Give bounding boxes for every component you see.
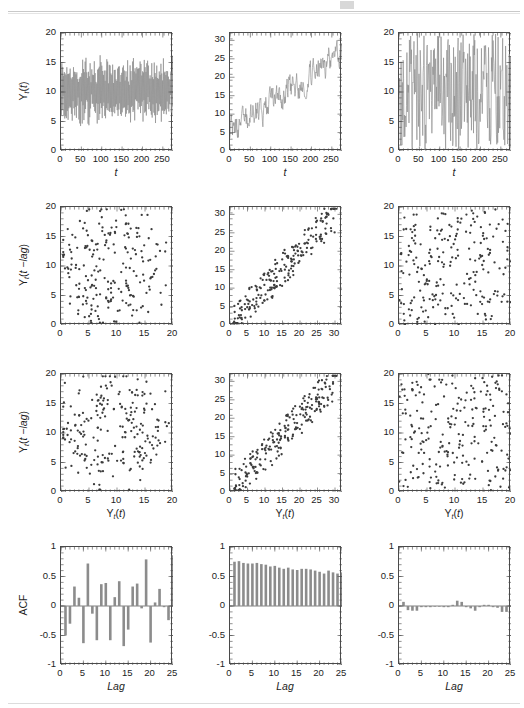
acf-bar	[402, 602, 405, 606]
acf-bar	[456, 601, 459, 606]
acf-bar	[469, 606, 472, 608]
x-tick-label: 0	[395, 668, 400, 678]
axes-frame-r4c3	[398, 546, 510, 664]
acf-bar	[460, 602, 463, 606]
acf-bar	[407, 606, 410, 610]
acf-bar	[478, 606, 481, 607]
acf-bar	[465, 606, 468, 607]
acf-bar	[443, 606, 446, 607]
scan-header	[0, 0, 524, 16]
acf-bar	[492, 606, 495, 607]
y-tick-label: -0.5	[372, 630, 394, 640]
x-tick-label: 15	[460, 668, 471, 678]
panel-grid: 05101520050100150200250tYt(t)05101520253…	[0, 16, 524, 704]
x-tick-label: 10	[438, 668, 449, 678]
acf-bar	[483, 605, 486, 606]
header-rule-secondary	[8, 13, 520, 14]
acf-bar	[487, 605, 490, 606]
acf-bar	[505, 606, 508, 612]
acf-bar	[438, 606, 441, 607]
y-tick-label: 1	[372, 541, 394, 551]
acf-bar	[434, 606, 437, 607]
acf-bar	[429, 606, 432, 607]
scan-artifact	[340, 1, 354, 9]
acf-bar	[411, 606, 414, 611]
x-tick-label: 25	[505, 668, 516, 678]
x-tick-label: 20	[482, 668, 493, 678]
y-tick-label: 0	[372, 600, 394, 610]
figure-page: 05101520050100150200250tYt(t)05101520253…	[0, 0, 524, 708]
acf-bar	[474, 606, 477, 611]
acf-bar	[451, 605, 454, 606]
plot-area-r4c3	[399, 547, 511, 665]
acf-bar	[510, 606, 511, 607]
panel-r4c3: -1-0.500.510510152025Lag	[0, 16, 524, 704]
x-axis-label: Lag	[445, 681, 463, 692]
y-tick-label: 0.5	[372, 571, 394, 581]
acf-bar	[420, 606, 423, 607]
acf-bar	[425, 606, 428, 607]
acf-bar	[416, 606, 419, 611]
acf-bar	[447, 606, 450, 607]
y-tick-label: -1	[372, 659, 394, 669]
acf-bar	[501, 606, 504, 612]
header-rule	[8, 11, 520, 12]
x-tick-label: 5	[418, 668, 423, 678]
acf-bar	[496, 606, 499, 608]
